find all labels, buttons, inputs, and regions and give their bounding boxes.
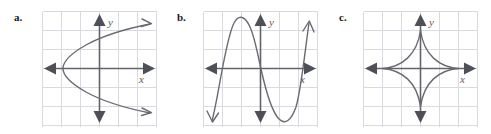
x-axis-arrow-left [365, 63, 377, 75]
panel-a-graph: y x [42, 11, 157, 127]
y-axis-arrow-up [415, 14, 427, 26]
x-axis-label: x [459, 73, 465, 85]
panel-c-label: c. [339, 12, 347, 23]
panel-c-graph: y x [363, 11, 478, 127]
x-axis-arrow-right [143, 63, 155, 75]
y-axis-arrow-up [255, 14, 267, 26]
panel-a: a. [0, 0, 165, 134]
worksheet-figure: a. [0, 0, 491, 134]
x-axis-label: x [299, 73, 305, 85]
axes [49, 19, 150, 118]
y-axis-arrow-up [94, 14, 106, 26]
y-axis-label: y [428, 16, 434, 28]
y-axis-arrow-down [255, 111, 267, 123]
panel-c: c. [325, 0, 491, 134]
panel-b-svg: y x [203, 11, 318, 127]
x-axis-label: x [138, 73, 144, 85]
panel-b: b. [163, 0, 328, 134]
panel-a-label: a. [14, 12, 22, 23]
y-axis-label: y [268, 16, 274, 28]
y-axis-arrow-down [415, 111, 427, 123]
panel-a-svg: y x [42, 11, 157, 127]
x-axis-arrow-left [205, 63, 217, 75]
y-axis-label: y [107, 16, 113, 28]
x-axis-arrow-right [464, 63, 476, 75]
panel-b-graph: y x [203, 11, 318, 127]
x-axis-arrow-left [44, 63, 56, 75]
curve-arrow-upper-right [142, 19, 152, 27]
panel-c-svg: y x [363, 11, 478, 127]
x-axis-arrow-right [304, 63, 316, 75]
y-axis-arrow-down [94, 111, 106, 123]
panel-b-label: b. [177, 12, 186, 23]
